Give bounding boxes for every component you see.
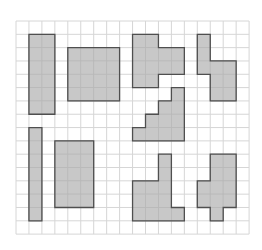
shape-cell	[158, 128, 171, 141]
shape-cell	[146, 181, 159, 194]
shape-cell	[223, 74, 236, 87]
shape-square	[68, 48, 120, 101]
shape-cell	[197, 194, 210, 207]
shape-cell	[210, 181, 223, 194]
shape-cell	[133, 194, 146, 207]
shape-cell	[223, 168, 236, 181]
shape-cell	[158, 48, 171, 61]
shape-cell	[94, 74, 107, 87]
shape-cell	[171, 61, 184, 74]
shape-cell	[81, 194, 94, 207]
shape-cell	[197, 34, 210, 47]
shape-cell	[29, 61, 42, 74]
shape-cell	[42, 101, 55, 114]
shape-cell	[68, 88, 81, 101]
shape-cell	[197, 61, 210, 74]
shape-cell	[42, 48, 55, 61]
shape-cell	[68, 168, 81, 181]
shape-cell	[146, 207, 159, 220]
shape-cell	[133, 34, 146, 47]
shape-cell	[133, 61, 146, 74]
shape-cell	[158, 154, 171, 167]
shape-cell	[29, 141, 42, 154]
shape-cell	[55, 194, 68, 207]
shape-cell	[94, 48, 107, 61]
shape-cell	[223, 181, 236, 194]
shape-cell	[146, 128, 159, 141]
grid-canvas	[0, 0, 262, 250]
shape-cell	[55, 168, 68, 181]
shape-cell	[29, 207, 42, 220]
shape-cell	[171, 88, 184, 101]
shape-cell	[158, 61, 171, 74]
shape-cell	[146, 194, 159, 207]
shape-cell	[81, 141, 94, 154]
shape-cell	[29, 154, 42, 167]
shape-cell	[210, 88, 223, 101]
shape-cell	[223, 61, 236, 74]
shape-cell	[42, 88, 55, 101]
shape-cell	[94, 61, 107, 74]
shape-cell	[42, 74, 55, 87]
shape-cell	[42, 61, 55, 74]
shape-cell	[107, 48, 120, 61]
shape-cell	[133, 207, 146, 220]
shape-cell	[55, 154, 68, 167]
shape-cell	[223, 154, 236, 167]
shape-cell	[171, 114, 184, 127]
shape-cell	[55, 141, 68, 154]
shape-cell	[55, 181, 68, 194]
shape-cell	[107, 61, 120, 74]
shape-cell	[210, 194, 223, 207]
shape-cell	[210, 207, 223, 220]
shape-cell	[223, 88, 236, 101]
shape-cell	[171, 207, 184, 220]
shape-cell	[29, 88, 42, 101]
shape-cell	[68, 181, 81, 194]
shape-cell	[158, 207, 171, 220]
shape-cell	[81, 168, 94, 181]
shape-cell	[133, 128, 146, 141]
shape-cell	[107, 74, 120, 87]
shape-cell	[29, 48, 42, 61]
shape-cell	[81, 61, 94, 74]
shape-tall-rectangle	[29, 34, 55, 114]
shape-cell	[81, 181, 94, 194]
shape-cell	[29, 74, 42, 87]
shape-cell	[158, 101, 171, 114]
shape-thin-rectangle	[29, 128, 42, 221]
shape-cell	[68, 154, 81, 167]
shape-rectangle	[55, 141, 94, 208]
shape-cell	[210, 168, 223, 181]
shape-cell	[171, 128, 184, 141]
shape-cell	[81, 154, 94, 167]
shape-cell	[68, 61, 81, 74]
shape-cell	[210, 154, 223, 167]
shape-cell	[68, 48, 81, 61]
shape-cell	[146, 61, 159, 74]
shape-cell	[107, 88, 120, 101]
shape-cell	[42, 34, 55, 47]
shape-cell	[29, 194, 42, 207]
shape-cell	[197, 48, 210, 61]
shape-cell	[133, 74, 146, 87]
shape-cell	[133, 48, 146, 61]
shape-cell	[171, 48, 184, 61]
shape-cell	[210, 74, 223, 87]
shape-cell	[158, 181, 171, 194]
shape-cell	[68, 194, 81, 207]
shape-cell	[197, 181, 210, 194]
shape-cell	[146, 74, 159, 87]
shape-cell	[171, 101, 184, 114]
shape-cell	[146, 114, 159, 127]
shape-cell	[68, 74, 81, 87]
shape-cell	[29, 181, 42, 194]
shape-cell	[158, 194, 171, 207]
shape-cell	[223, 194, 236, 207]
shape-cell	[146, 34, 159, 47]
shape-cell	[81, 88, 94, 101]
shape-cell	[81, 48, 94, 61]
shape-cell	[146, 48, 159, 61]
shape-cell	[29, 168, 42, 181]
shape-cell	[94, 88, 107, 101]
